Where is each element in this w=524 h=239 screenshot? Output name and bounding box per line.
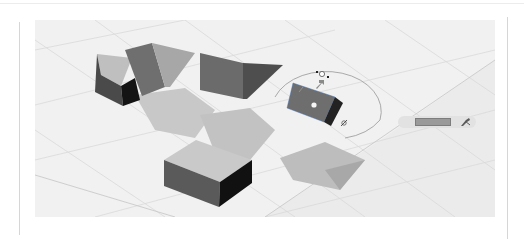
measurement-input[interactable] (415, 118, 451, 126)
pivot-point[interactable] (311, 102, 316, 107)
prism-center[interactable] (200, 53, 283, 99)
frame-right-border (507, 17, 508, 239)
frame-left-border (19, 22, 20, 235)
prism-selected[interactable] (287, 83, 343, 126)
gizmo-handle[interactable] (319, 71, 324, 76)
move-cursor-icon (341, 120, 347, 126)
measure-cursor-icon (460, 117, 472, 127)
frame-top-border (0, 3, 524, 4)
rotate-arrow-icon (316, 80, 324, 89)
